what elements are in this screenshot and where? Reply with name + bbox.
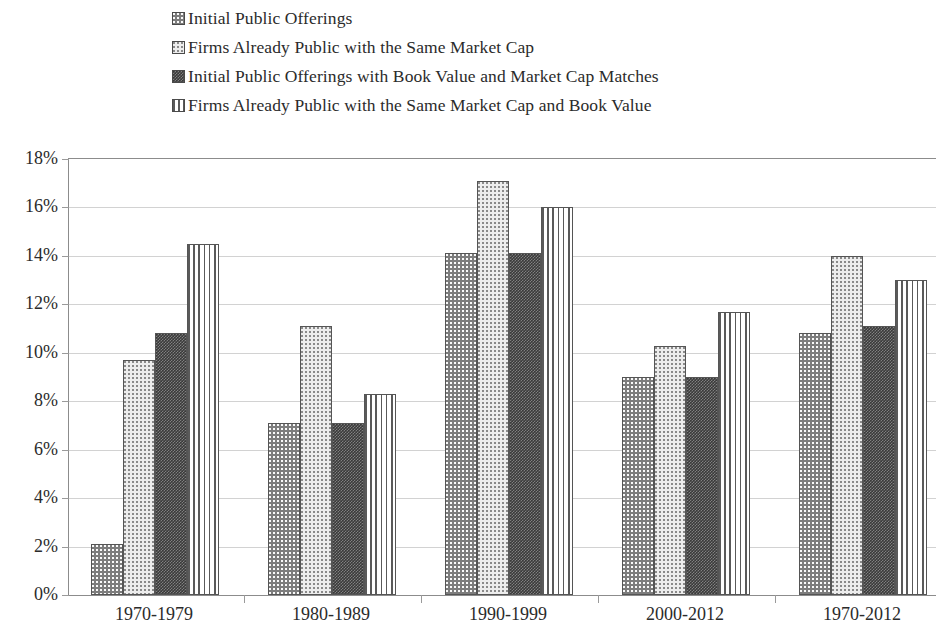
y-axis-tick-label: 0% bbox=[0, 585, 58, 603]
bar bbox=[622, 377, 654, 595]
y-axis-tick-label: 12% bbox=[0, 294, 58, 312]
y-axis-tick-label: 16% bbox=[0, 197, 58, 215]
y-axis-tick bbox=[62, 450, 69, 451]
y-axis-tick-label: 10% bbox=[0, 343, 58, 361]
y-axis-tick bbox=[62, 401, 69, 402]
bar bbox=[831, 256, 863, 595]
plot-area bbox=[68, 158, 936, 596]
x-axis-tick bbox=[775, 595, 776, 603]
bar bbox=[895, 280, 927, 595]
x-axis-category-label: 1990-1999 bbox=[418, 605, 598, 623]
bar bbox=[718, 312, 750, 595]
y-axis-tick bbox=[62, 304, 69, 305]
y-axis-tick bbox=[62, 207, 69, 208]
y-axis-tick bbox=[62, 498, 69, 499]
y-axis-tick bbox=[62, 159, 69, 160]
x-axis-category-label: 1970-1979 bbox=[64, 605, 244, 623]
bar bbox=[863, 326, 895, 595]
x-axis-tick bbox=[244, 595, 245, 603]
x-axis-tick bbox=[421, 595, 422, 603]
y-axis-tick-label: 6% bbox=[0, 440, 58, 458]
y-axis-tick-label: 18% bbox=[0, 149, 58, 167]
bar bbox=[541, 207, 573, 595]
x-axis-category-label: 2000-2012 bbox=[595, 605, 775, 623]
bar bbox=[155, 333, 187, 595]
bar bbox=[364, 394, 396, 595]
bar bbox=[268, 423, 300, 595]
bar bbox=[654, 346, 686, 595]
bar bbox=[477, 181, 509, 595]
grouped-bar-chart: 0%2%4%6%8%10%12%14%16%18% 1970-19791980-… bbox=[0, 0, 945, 628]
x-axis-category-label: 1970-2012 bbox=[772, 605, 945, 623]
y-axis-tick-label: 8% bbox=[0, 391, 58, 409]
y-axis-tick bbox=[62, 595, 69, 596]
bar bbox=[509, 253, 541, 595]
bar bbox=[445, 253, 477, 595]
bar bbox=[91, 544, 123, 595]
bar bbox=[123, 360, 155, 595]
y-axis-tick-label: 4% bbox=[0, 488, 58, 506]
y-axis-tick bbox=[62, 547, 69, 548]
y-axis-tick bbox=[62, 256, 69, 257]
bar bbox=[799, 333, 831, 595]
y-axis-tick-label: 2% bbox=[0, 537, 58, 555]
x-axis-category-label: 1980-1989 bbox=[241, 605, 421, 623]
y-axis-tick-label: 14% bbox=[0, 246, 58, 264]
bar bbox=[300, 326, 332, 595]
y-axis-tick bbox=[62, 353, 69, 354]
x-axis-tick bbox=[598, 595, 599, 603]
bar bbox=[686, 377, 718, 595]
bar bbox=[187, 244, 219, 595]
bar bbox=[332, 423, 364, 595]
